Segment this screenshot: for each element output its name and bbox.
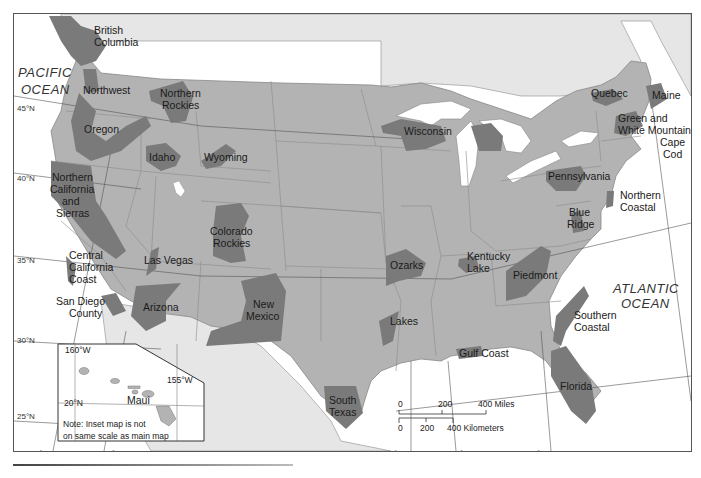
label-ozarks: Ozarks: [390, 259, 423, 271]
us-regions-map: PACIFIC OCEAN ATLANTIC OCEAN BritishColu…: [14, 14, 691, 451]
inset-lat-20: 20°N: [64, 398, 83, 408]
lon-115: 115°W: [99, 449, 123, 451]
lon-120: 120°W: [26, 449, 51, 451]
lon-85: 85°W: [528, 449, 548, 451]
label-gulf-coast: Gulf Coast: [459, 347, 509, 359]
lat-40: 40°N: [17, 174, 35, 183]
lon-95: 95°W: [385, 449, 405, 451]
pacific-ocean-label: PACIFIC: [18, 65, 72, 80]
lat-45: 45°N: [17, 104, 35, 113]
scale-km-400: 400 Kilometers: [447, 423, 504, 433]
atlantic-ocean-label: ATLANTIC: [612, 281, 679, 296]
label-northern-rockies: NorthernRockies: [160, 87, 201, 111]
inset-note-1: Note: Inset map is not: [63, 419, 146, 429]
label-idaho: Idaho: [149, 151, 175, 163]
scale-miles-200: 200: [438, 399, 452, 409]
label-piedmont: Piedmont: [513, 269, 557, 281]
inset-note-2: on same scale as main map: [63, 431, 169, 441]
pacific-ocean-label-2: OCEAN: [21, 82, 70, 97]
label-arizona: Arizona: [143, 301, 179, 313]
scale-km-0: 0: [398, 423, 403, 433]
label-wisconsin: Wisconsin: [404, 125, 452, 137]
inset-lon-155: 155°W: [167, 375, 193, 385]
scale-miles-400: 400 Miles: [478, 399, 514, 409]
label-south-texas: SouthTexas: [329, 394, 357, 418]
label-oregon: Oregon: [84, 123, 119, 135]
label-pennsylvania: Pennsylvania: [548, 170, 611, 182]
label-quebec: Quebec: [591, 87, 628, 99]
label-maine: Maine: [652, 89, 681, 101]
inset-maui-label: Maui: [127, 394, 150, 406]
label-cape-cod: CapeCod: [660, 136, 685, 160]
scale-miles-0: 0: [398, 399, 403, 409]
label-las-vegas: Las Vegas: [144, 254, 193, 266]
map-frame: PACIFIC OCEAN ATLANTIC OCEAN BritishColu…: [13, 13, 692, 452]
lon-90: 90°W: [451, 449, 471, 451]
label-florida: Florida: [560, 380, 592, 392]
label-green-white: Green andWhite Mountains: [618, 112, 691, 136]
label-wyoming: Wyoming: [204, 151, 248, 163]
label-san-diego: San DiegoCounty: [56, 295, 105, 319]
lat-30: 30°N: [17, 336, 35, 345]
label-northwest: Northwest: [83, 84, 130, 96]
atlantic-ocean-label-2: OCEAN: [621, 296, 670, 311]
label-lakes: Lakes: [390, 315, 418, 327]
lat-35: 35°N: [17, 256, 35, 265]
label-colorado-rockies: ColoradoRockies: [210, 225, 253, 249]
inset-lon-160: 160°W: [65, 345, 91, 355]
label-southern-coastal: SouthernCoastal: [574, 309, 617, 333]
bottom-rule: [13, 464, 293, 466]
label-northern-coastal: NorthernCoastal: [620, 189, 661, 213]
lat-25: 25°N: [17, 412, 35, 421]
region-northern-coastal: [606, 191, 614, 208]
scale-km-200: 200: [420, 423, 434, 433]
